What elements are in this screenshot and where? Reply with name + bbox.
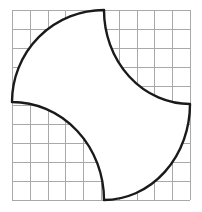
figure-container — [0, 0, 202, 212]
grid-arc-figure — [0, 0, 202, 212]
